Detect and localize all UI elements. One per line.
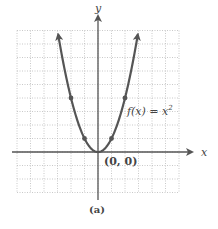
- parabola-curve: [98, 35, 138, 152]
- x-axis-label: x: [201, 146, 208, 159]
- y-axis-label: y: [94, 2, 102, 15]
- data-point: [109, 136, 114, 141]
- parabola-curve-left: [58, 35, 98, 152]
- function-label: f(x) = x2: [126, 104, 173, 118]
- parabola-graph: x y f(x) = x2 (0, 0) (a): [0, 0, 218, 229]
- origin-label: (0, 0): [104, 155, 137, 168]
- figure-caption: (a): [89, 204, 105, 215]
- data-point: [123, 96, 128, 101]
- data-point: [69, 96, 74, 101]
- data-point: [82, 136, 87, 141]
